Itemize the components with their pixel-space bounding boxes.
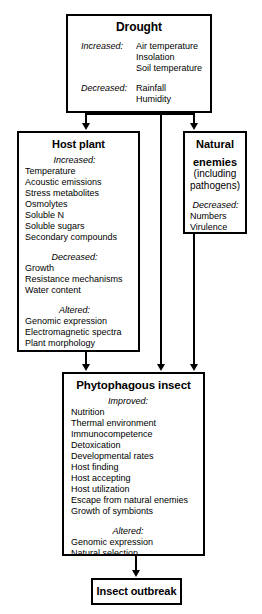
group-label: Improved:	[71, 396, 203, 407]
list-item: Host accepting	[71, 473, 203, 484]
edge-drought-to-host-plant-arrowhead	[82, 123, 90, 130]
list-item: Insolation	[136, 52, 202, 63]
list-item: Host finding	[71, 462, 203, 473]
list-item: Natural selection	[71, 548, 203, 559]
node-host-plant-title: Host plant	[19, 138, 138, 151]
list-item: Genomic expression	[71, 537, 203, 548]
node-natural-enemies: Natural enemies (including pathogens) De…	[183, 131, 247, 234]
list-item: Temperature	[25, 166, 138, 177]
list-item: Growth of symbionts	[71, 506, 203, 517]
list-item: Plant morphology	[25, 338, 138, 349]
node-insect-outbreak-title: Insect outbreak	[97, 585, 177, 598]
group-label: Decreased:	[81, 83, 136, 94]
node-drought-body: Increased: Air temperature Insolation So…	[68, 41, 210, 105]
list-item: Water content	[25, 285, 138, 296]
spacer	[81, 74, 210, 83]
list-item: Nutrition	[71, 407, 203, 418]
drought-group-decreased: Decreased: Rainfall Humidity	[81, 83, 210, 105]
list-item: Osmolytes	[25, 199, 138, 210]
node-natural-enemies-title-line2: enemies	[185, 156, 245, 169]
list-item: Numbers	[190, 211, 245, 222]
node-phytophagous-insect: Phytophagous insect Improved: Nutrition …	[62, 372, 205, 556]
edge-natural-enemies-to-phytophagous-insect-line	[193, 234, 195, 365]
group-items: Rainfall Humidity	[136, 83, 171, 105]
group-label: Increased:	[81, 41, 136, 52]
node-phytophagous-insect-title: Phytophagous insect	[64, 379, 203, 392]
list-item: Host utilization	[71, 484, 203, 495]
list-item: Resistance mechanisms	[25, 274, 138, 285]
diagram-canvas: Drought Increased: Air temperature Insol…	[0, 0, 262, 614]
list-item: Soluble N	[25, 210, 138, 221]
node-host-plant: Host plant Increased: Temperature Acoust…	[17, 131, 140, 352]
node-phytophagous-insect-body: Improved: Nutrition Thermal environment …	[64, 396, 203, 559]
edge-phytophagous-insect-to-insect-outbreak-arrowhead	[132, 570, 140, 577]
list-item: Soluble sugars	[25, 221, 138, 232]
edge-drought-bus	[85, 113, 195, 115]
node-drought-title: Drought	[68, 21, 210, 34]
group-label: Decreased:	[25, 252, 138, 263]
node-insect-outbreak: Insect outbreak	[91, 578, 182, 605]
node-natural-enemies-subtitle-line1: (including	[185, 168, 245, 180]
list-item: Developmental rates	[71, 451, 203, 462]
group-items: Air temperature Insolation Soil temperat…	[136, 41, 202, 74]
node-drought: Drought Increased: Air temperature Insol…	[66, 14, 212, 113]
list-item: Electromagnetic spectra	[25, 327, 138, 338]
list-item: Genomic expression	[25, 316, 138, 327]
list-item: Virulence	[190, 222, 245, 233]
list-item: Stress metabolites	[25, 188, 138, 199]
group-label: Decreased:	[190, 200, 245, 211]
edge-drought-to-phytophagous-insect-arrowhead	[157, 364, 165, 371]
list-item: Rainfall	[136, 83, 171, 94]
group-label: Altered:	[25, 305, 138, 316]
edge-host-plant-to-phytophagous-insect-arrowhead	[82, 364, 90, 371]
list-item: Detoxication	[71, 440, 203, 451]
edge-drought-to-phytophagous-insect-line	[160, 113, 162, 365]
drought-group-increased: Increased: Air temperature Insolation So…	[81, 41, 210, 74]
group-label: Altered:	[71, 526, 203, 537]
list-item: Growth	[25, 263, 138, 274]
list-item: Soil temperature	[136, 63, 202, 74]
node-natural-enemies-subtitle-line2: pathogens)	[185, 180, 245, 192]
edge-natural-enemies-to-phytophagous-insect-arrowhead	[190, 364, 198, 371]
list-item: Escape from natural enemies	[71, 495, 203, 506]
list-item: Acoustic emissions	[25, 177, 138, 188]
list-item: Immunocompetence	[71, 429, 203, 440]
node-natural-enemies-title-line1: Natural	[185, 138, 245, 151]
edge-drought-to-natural-enemies-arrowhead	[190, 123, 198, 130]
edge-phytophagous-insect-to-insect-outbreak-line	[135, 556, 137, 571]
list-item: Air temperature	[136, 41, 202, 52]
spacer	[25, 243, 138, 252]
list-item: Secondary compounds	[25, 232, 138, 243]
list-item: Thermal environment	[71, 418, 203, 429]
spacer	[71, 517, 203, 526]
list-item: Humidity	[136, 94, 171, 105]
spacer	[25, 296, 138, 305]
node-natural-enemies-body: Decreased: Numbers Virulence	[185, 200, 245, 233]
group-label: Increased:	[25, 155, 138, 166]
node-host-plant-body: Increased: Temperature Acoustic emission…	[19, 155, 138, 349]
